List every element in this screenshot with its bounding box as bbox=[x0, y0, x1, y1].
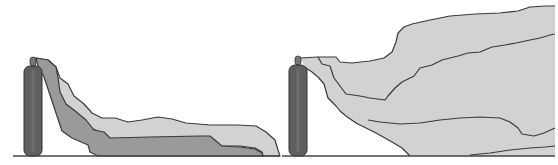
diagram-canvas bbox=[0, 0, 558, 165]
right-panel bbox=[289, 6, 555, 156]
gas-dispersion-diagram bbox=[0, 0, 558, 165]
right-cylinder-valve bbox=[295, 56, 301, 65]
left-cylinder-valve bbox=[30, 57, 36, 66]
right-plume bbox=[300, 6, 555, 156]
left-panel bbox=[24, 57, 280, 156]
